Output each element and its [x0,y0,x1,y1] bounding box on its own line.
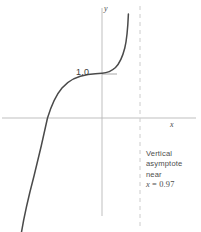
annotation-equation-value: = 0.97 [150,180,175,189]
plot-canvas [0,0,201,232]
asymptote-figure: y x 1.0 Vertical asymptote near x = 0.97 [0,0,201,232]
annotation-line-2: asymptote [146,159,200,169]
y-tick-label-1: 1.0 [76,68,89,77]
annotation-equation: x = 0.97 [146,180,200,190]
annotation-line-3: near [146,170,200,180]
annotation-line-1: Vertical [146,149,200,159]
y-axis-label: y [104,5,108,13]
curve-path [22,14,129,232]
x-axis-label: x [170,121,174,129]
asymptote-annotation: Vertical asymptote near x = 0.97 [146,149,200,190]
